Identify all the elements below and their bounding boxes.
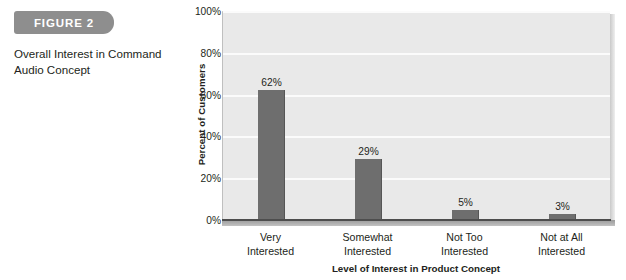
x-axis-tick-label: Not at AllInterested — [513, 230, 610, 258]
figure-caption-text: Overall Interest in Command Audio Concep… — [14, 46, 174, 77]
y-axis-tick-labels: 0%20%40%60%80%100% — [191, 11, 221, 220]
bar-chart: Percent of Customers 0%20%40%60%80%100% … — [186, 0, 626, 280]
bar-group: 5% — [417, 12, 514, 220]
y-axis-tick-label: 100% — [191, 6, 221, 17]
bar[interactable] — [258, 90, 285, 220]
x-axis-tick-label-line: Interested — [319, 244, 416, 258]
x-axis-tick-label: VeryInterested — [222, 230, 319, 258]
x-axis-tick-labels: VeryInterestedSomewhatInterestedNot TooI… — [222, 230, 610, 262]
x-axis-tick-label-line: Interested — [222, 244, 319, 258]
x-axis-baseline — [222, 219, 611, 221]
figure-page: FIGURE 2 Overall Interest in Command Aud… — [0, 0, 626, 280]
figure-number-label: FIGURE 2 — [34, 17, 94, 29]
figure-caption-block: FIGURE 2 Overall Interest in Command Aud… — [14, 11, 184, 77]
x-axis-tick-label-line: Not Too — [416, 230, 513, 244]
x-axis-tick-label-line: Interested — [513, 244, 610, 258]
x-axis-tick-label: Not TooInterested — [416, 230, 513, 258]
y-axis-tick-label: 20% — [191, 173, 221, 184]
bar-group: 29% — [320, 12, 417, 220]
plot-area: 62%29%5%3% — [222, 11, 610, 220]
bars-layer: 62%29%5%3% — [223, 12, 610, 220]
bar-value-label: 62% — [261, 77, 281, 88]
x-axis-tick-label-line: Not at All — [513, 230, 610, 244]
x-axis-tick-label-line: Interested — [416, 244, 513, 258]
x-axis-tick-label-line: Very — [222, 230, 319, 244]
y-axis-tick-label: 60% — [191, 89, 221, 100]
bar-value-label: 5% — [458, 197, 473, 208]
bar-group: 3% — [514, 12, 611, 220]
x-axis-tick-label: SomewhatInterested — [319, 230, 416, 258]
x-axis-tick-label-line: Somewhat — [319, 230, 416, 244]
bar-group: 62% — [223, 12, 320, 220]
bar-value-label: 29% — [358, 146, 378, 157]
y-axis-tick-label: 40% — [191, 131, 221, 142]
bar[interactable] — [355, 159, 382, 220]
y-axis-tick-label: 80% — [191, 47, 221, 58]
y-axis-tick-label: 0% — [191, 215, 221, 226]
figure-number-badge: FIGURE 2 — [14, 11, 114, 34]
x-axis-title: Level of Interest in Product Concept — [222, 263, 610, 274]
bar-value-label: 3% — [555, 201, 570, 212]
